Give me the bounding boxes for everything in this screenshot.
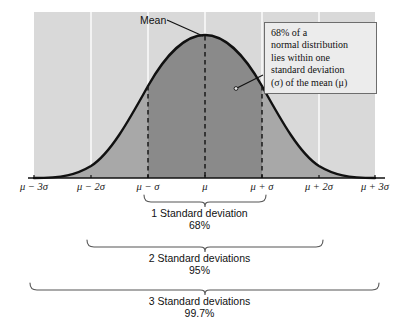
bracket-percent-2-sd: 95% <box>0 264 399 276</box>
bracket-label-2-sd: 2 Standard deviations <box>0 252 399 264</box>
bracket-label-1-sd: 1 Standard deviation <box>0 207 399 219</box>
bracket-percent-3-sd: 99.7% <box>0 307 399 319</box>
figure-normal-distribution: μ − 3σ μ − 2σ μ − σ μ μ + σ μ + 2σ μ + 3… <box>0 0 399 328</box>
bracket-2-sd <box>87 240 323 252</box>
bracket-percent-1-sd: 68% <box>0 219 399 231</box>
bracket-1-sd <box>144 195 266 207</box>
bracket-3-sd <box>30 283 379 295</box>
bracket-label-3-sd: 3 Standard deviations <box>0 295 399 307</box>
bracket-group <box>0 0 399 328</box>
